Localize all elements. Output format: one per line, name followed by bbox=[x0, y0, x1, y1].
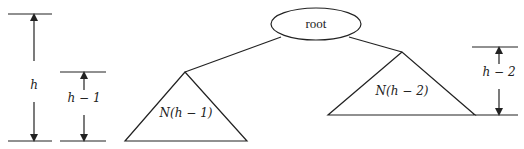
h2-label: h − 2 bbox=[482, 65, 515, 79]
left-subtree: N(h − 1) bbox=[125, 72, 247, 141]
edge-root-left bbox=[185, 37, 281, 72]
right-subtree: N(h − 2) bbox=[328, 52, 475, 115]
left-subtree-label: N(h − 1) bbox=[159, 106, 213, 120]
root-label: root bbox=[306, 16, 327, 31]
height-marker-h-minus-1: h − 1 bbox=[60, 72, 106, 141]
edge-root-right bbox=[349, 37, 402, 52]
root-node: root bbox=[271, 8, 361, 40]
diagram-svg: h h − 1 root N(h − 1) N(h − 2) bbox=[0, 0, 524, 149]
right-subtree-label: N(h − 2) bbox=[375, 84, 429, 98]
avl-min-nodes-diagram: h h − 1 root N(h − 1) N(h − 2) bbox=[0, 0, 524, 149]
height-marker-h-minus-2: h − 2 bbox=[472, 47, 518, 115]
h-label: h bbox=[30, 78, 38, 92]
h1-label: h − 1 bbox=[67, 91, 100, 105]
height-marker-h: h bbox=[8, 14, 52, 141]
